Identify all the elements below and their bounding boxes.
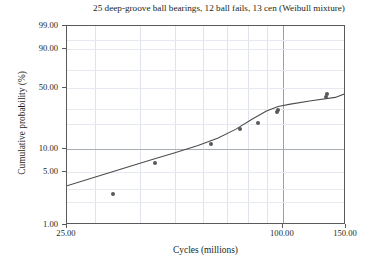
- data-point: [276, 108, 280, 112]
- x-axis-tick-mark: [66, 224, 67, 228]
- data-point: [111, 192, 115, 196]
- x-axis-tick-mark: [345, 224, 346, 228]
- x-axis-tick-label: 150.00: [333, 228, 357, 238]
- chart-title: 25 deep-groove ball bearings, 12 ball fa…: [60, 2, 378, 14]
- y-axis-tick-label: 99.00: [2, 20, 58, 30]
- x-axis-tick-label: 100.00: [270, 228, 294, 238]
- y-axis-tick-label: 1.00: [2, 219, 58, 229]
- plot-area: [66, 25, 345, 224]
- y-axis-tick-label: 10.00: [2, 143, 58, 153]
- y-axis-tick-label: 5.00: [2, 166, 58, 176]
- chart-root: 25 deep-groove ball bearings, 12 ball fa…: [0, 0, 380, 272]
- x-axis-tick-mark: [282, 224, 283, 228]
- data-point: [256, 121, 260, 125]
- y-axis-tick-label: 50.00: [2, 82, 58, 92]
- fit-curve-layer: [67, 26, 345, 224]
- data-point: [153, 161, 157, 165]
- y-axis-tick-label: 90.00: [2, 43, 58, 53]
- data-point: [209, 142, 213, 146]
- x-axis-tick-label: 25.00: [56, 228, 75, 238]
- x-axis-label: Cycles (millions): [66, 245, 345, 255]
- y-axis-label: Cumulative probability (%): [17, 33, 27, 213]
- weibull-mixture-fit-line: [67, 79, 345, 186]
